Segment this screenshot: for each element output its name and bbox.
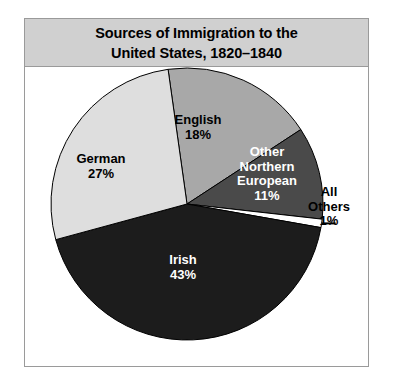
page-title-line-2: United States, 1820–1840: [111, 43, 282, 63]
pie-chart-svg: [25, 67, 368, 366]
chart-title-band: Sources of Immigration to the United Sta…: [25, 19, 368, 67]
page-title-line-1: Sources of Immigration to the: [95, 23, 298, 43]
pie-chart-plot-area: English 18% Other Northern European 11% …: [25, 67, 368, 366]
pie-slice-group: [51, 68, 323, 340]
chart-figure: Sources of Immigration to the United Sta…: [24, 18, 369, 367]
